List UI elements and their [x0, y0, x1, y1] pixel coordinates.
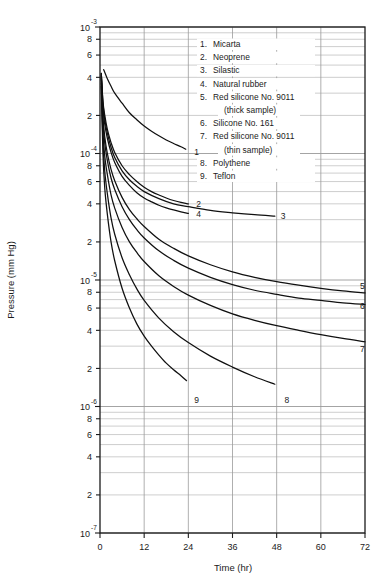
y-tick-label: 10: [80, 149, 90, 159]
y-axis-title: Pressure (mm Hg): [5, 241, 16, 319]
y-minor-tick-label: 8: [87, 34, 92, 44]
legend-item-number: 9.: [200, 171, 207, 181]
x-axis-title: Time (hr): [214, 562, 252, 573]
curve-label-5: 5: [360, 281, 365, 291]
y-minor-tick-label: 2: [87, 111, 92, 121]
y-minor-tick-label: 4: [87, 199, 92, 209]
x-tick-label: 0: [97, 542, 102, 552]
curve-label-2: 2: [196, 199, 201, 209]
y-minor-tick-label: 8: [87, 414, 92, 424]
y-minor-tick-label: 2: [87, 364, 92, 374]
x-tick-label: 12: [139, 542, 149, 552]
legend-item-label: Natural rubber: [213, 79, 267, 89]
y-minor-tick-label: 6: [87, 50, 92, 60]
x-axis-ticks: [100, 533, 365, 538]
y-tick-label: 10: [80, 23, 90, 33]
y-minor-tick-label: 4: [87, 452, 92, 462]
chart-canvas: 123456789 10-3864210-4864210-5864210-686…: [0, 0, 380, 588]
legend-item-label: Silastic: [213, 65, 240, 75]
y-minor-tick-label: 2: [87, 237, 92, 247]
y-minor-tick-label: 6: [87, 303, 92, 313]
data-curves: [101, 70, 365, 385]
legend-item-number: 4.: [200, 79, 207, 89]
y-axis-tick-labels: 10-3864210-4864210-5864210-6864210-7: [80, 18, 97, 539]
y-minor-tick-label: 6: [87, 430, 92, 440]
legend-item-continuation: (thin sample): [224, 145, 273, 155]
y-minor-tick-label: 4: [87, 73, 92, 83]
x-tick-label: 48: [272, 542, 282, 552]
legend-item-number: 7.: [200, 131, 207, 141]
curve-label-8: 8: [285, 395, 290, 405]
y-tick-label: 10: [80, 402, 90, 412]
y-tick-exponent: -5: [91, 271, 97, 278]
legend: 1.Micarta2.Neoprene3.Silastic4.Natural r…: [197, 39, 315, 183]
curve-label-7: 7: [360, 344, 365, 354]
legend-item-number: 3.: [200, 65, 207, 75]
y-minor-tick-label: 6: [87, 177, 92, 187]
y-tick-label: 10: [80, 529, 90, 539]
legend-item-number: 2.: [200, 52, 207, 62]
legend-item-number: 1.: [200, 39, 207, 49]
y-minor-tick-label: 8: [87, 161, 92, 171]
curve-label-6: 6: [360, 301, 365, 311]
x-tick-label: 36: [227, 542, 237, 552]
y-axis-ticks: [95, 27, 100, 533]
curve-number-labels: 123456789: [194, 147, 365, 405]
y-minor-tick-label: 2: [87, 490, 92, 500]
y-tick-exponent: -6: [91, 398, 97, 405]
x-tick-label: 24: [183, 542, 193, 552]
legend-item-number: 8.: [200, 158, 207, 168]
curve-1: [104, 70, 186, 150]
legend-item-label: Micarta: [213, 39, 241, 49]
legend-item-label: Neoprene: [213, 52, 250, 62]
y-minor-tick-label: 4: [87, 326, 92, 336]
legend-item-label: Red silicone No. 9011: [213, 131, 295, 141]
y-tick-exponent: -3: [91, 18, 97, 25]
curve-label-1: 1: [194, 147, 199, 157]
legend-item-number: 5.: [200, 92, 207, 102]
pressure-vs-time-figure: 123456789 10-3864210-4864210-5864210-686…: [0, 0, 380, 588]
x-axis-tick-labels: 0122436486072: [97, 542, 370, 552]
y-tick-exponent: -4: [91, 145, 97, 152]
legend-item-label: Red silicone No. 9011: [213, 92, 295, 102]
y-tick-exponent: -7: [91, 524, 97, 531]
legend-item-label: Polythene: [213, 158, 251, 168]
x-tick-label: 72: [360, 542, 370, 552]
curve-label-3: 3: [281, 211, 286, 221]
curve-label-4: 4: [196, 209, 201, 219]
legend-item-label: Silicone No. 161: [213, 118, 274, 128]
y-minor-tick-label: 8: [87, 287, 92, 297]
legend-item-number: 6.: [200, 118, 207, 128]
curve-label-9: 9: [194, 395, 199, 405]
y-tick-label: 10: [80, 276, 90, 286]
legend-item-continuation: (thick sample): [224, 105, 276, 115]
x-tick-label: 60: [316, 542, 326, 552]
legend-item-label: Teflon: [213, 171, 236, 181]
